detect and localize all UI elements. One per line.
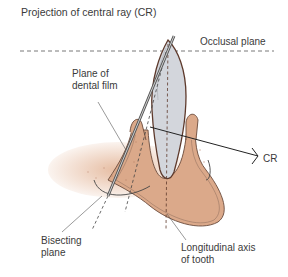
- long-axis-label-line1: Longitudinal axis: [181, 242, 256, 254]
- dental-film-label-line1: Plane of: [72, 68, 118, 80]
- bisecting-plane-label: Bisecting plane: [41, 235, 82, 258]
- dental-film-label-line2: dental film: [72, 80, 118, 92]
- bisect-leader: [62, 196, 102, 232]
- bisecting-label-line1: Bisecting: [41, 235, 82, 247]
- occlusal-plane-label: Occlusal plane: [200, 36, 266, 48]
- central-ray-label: CR: [263, 153, 277, 165]
- bisecting-label-line2: plane: [41, 247, 82, 259]
- long-axis-label-line2: of tooth: [181, 254, 256, 266]
- film-plane-extension: [92, 196, 108, 230]
- long-axis-label: Longitudinal axis of tooth: [181, 242, 256, 265]
- dental-film-label: Plane of dental film: [72, 68, 118, 91]
- diagram-title: Projection of central ray (CR): [21, 7, 156, 19]
